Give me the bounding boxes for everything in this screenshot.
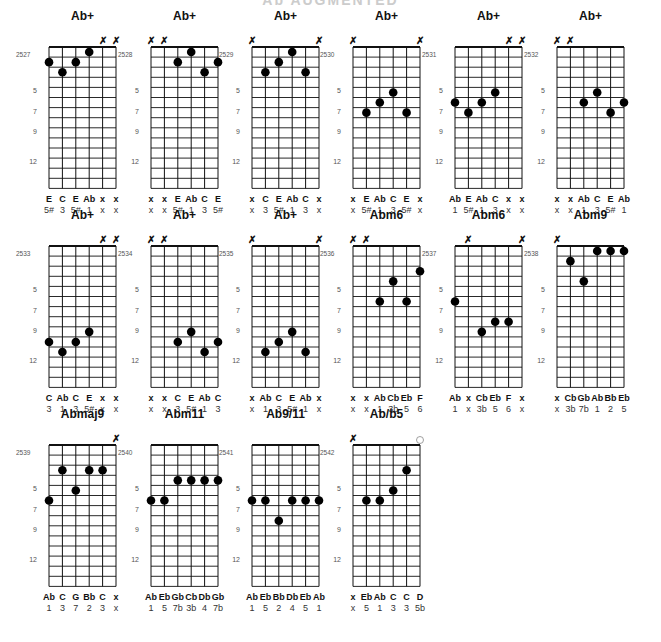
chord-name: Ab+ <box>232 208 339 222</box>
finger-dot-icon <box>72 338 81 347</box>
note-name: x <box>109 194 123 204</box>
finger-dot-icon <box>301 496 310 505</box>
muted-string-icon: ✗ <box>160 35 168 46</box>
fret-number-label: 5 <box>226 87 240 94</box>
finger-dot-icon <box>72 58 81 67</box>
note-name: Eb <box>617 393 631 403</box>
muted-string-icon: ✗ <box>416 35 424 46</box>
page-header: Ab AUGMENTED <box>0 0 661 8</box>
note-name: x <box>157 194 171 204</box>
finger-dot-icon <box>58 348 67 357</box>
note-name: Cb <box>475 393 489 403</box>
finger-dot-icon <box>45 496 54 505</box>
interval-label: 5 <box>258 603 272 613</box>
chord-name: Ab+ <box>29 9 136 23</box>
note-name: Ab <box>198 393 212 403</box>
note-name: x <box>461 393 475 403</box>
note-name: C <box>211 393 225 403</box>
fret-number-label: 12 <box>125 357 139 364</box>
fret-number-label: 5 <box>531 286 545 293</box>
note-name: D <box>413 592 427 602</box>
note-name: Eb <box>299 592 313 602</box>
fretboard-grid: ✗ <box>547 236 634 397</box>
muted-string-icon: ✗ <box>112 35 120 46</box>
interval-label: 3 <box>386 603 400 613</box>
finger-dot-icon <box>58 68 67 77</box>
note-name: x <box>563 194 577 204</box>
chord-number: 2536 <box>320 250 334 257</box>
finger-dot-icon <box>606 247 615 256</box>
interval-label: 7b <box>171 603 185 613</box>
fret-number-label: 12 <box>226 357 240 364</box>
finger-dot-icon <box>402 466 411 475</box>
note-name: Ab <box>55 393 69 403</box>
finger-dot-icon <box>504 317 513 326</box>
interval-label: 2 <box>272 603 286 613</box>
note-name: Ab <box>577 194 591 204</box>
fret-number-label: 12 <box>125 158 139 165</box>
finger-dot-icon <box>275 338 284 347</box>
finger-dot-icon <box>606 108 615 117</box>
chord-number: 2529 <box>219 51 233 58</box>
note-name: x <box>515 194 529 204</box>
fret-number-label: 12 <box>23 357 37 364</box>
fret-number-label: 7 <box>327 108 341 115</box>
finger-dot-icon <box>45 58 54 67</box>
finger-dot-icon <box>288 48 297 57</box>
finger-dot-icon <box>451 98 460 107</box>
note-name: E <box>184 393 198 403</box>
note-name: C <box>386 194 400 204</box>
finger-dot-icon <box>288 328 297 337</box>
muted-string-icon: ✗ <box>147 35 155 46</box>
fret-number-label: 9 <box>327 526 341 533</box>
fret-number-label: 12 <box>429 357 443 364</box>
note-name: C <box>55 592 69 602</box>
note-name: C <box>590 194 604 204</box>
finger-dot-icon <box>593 247 602 256</box>
fret-number-label: 9 <box>23 128 37 135</box>
chord-name: Ab+ <box>537 9 644 23</box>
fret-number-label: 12 <box>226 556 240 563</box>
note-name: Ab <box>475 194 489 204</box>
note-name: Gb <box>577 393 591 403</box>
note-name: x <box>144 393 158 403</box>
finger-dot-icon <box>58 466 67 475</box>
muted-string-icon: ✗ <box>99 35 107 46</box>
muted-string-icon: ✗ <box>315 35 323 46</box>
fret-number-label: 5 <box>226 286 240 293</box>
chord-number: 2535 <box>219 250 233 257</box>
interval-label: 1 <box>42 603 56 613</box>
note-name: Ab <box>448 194 462 204</box>
fret-number-label: 7 <box>531 307 545 314</box>
note-name: x <box>550 393 564 403</box>
note-name: C <box>488 194 502 204</box>
note-name: Ab <box>448 393 462 403</box>
finger-dot-icon <box>620 98 629 107</box>
fret-number-label: 5 <box>226 485 240 492</box>
note-name: x <box>502 194 516 204</box>
finger-dot-icon <box>214 338 223 347</box>
note-name: E <box>171 194 185 204</box>
fret-number-label: 5 <box>429 286 443 293</box>
interval-label: x <box>515 404 529 414</box>
muted-string-icon: ✗ <box>99 234 107 245</box>
interval-label: 1 <box>448 404 462 414</box>
fret-number-label: 9 <box>327 327 341 334</box>
fretboard-grid: ✗✗ <box>141 37 228 198</box>
note-name: C <box>386 592 400 602</box>
note-name: C <box>299 194 313 204</box>
chord-number: 2540 <box>118 449 132 456</box>
interval-label: 3 <box>96 603 110 613</box>
note-name: E <box>82 393 96 403</box>
interval-label: 5 <box>617 404 631 414</box>
chord-number: 2527 <box>16 51 30 58</box>
chord-name: Ab+ <box>131 208 238 222</box>
note-name: x <box>96 393 110 403</box>
chord-number: 2528 <box>118 51 132 58</box>
chord-number: 2537 <box>422 250 436 257</box>
fret-number-label: 7 <box>226 307 240 314</box>
fretboard-grid: ✗ <box>343 435 430 596</box>
note-name: x <box>359 393 373 403</box>
chord-number: 2531 <box>422 51 436 58</box>
fretboard-grid: ✗ <box>39 435 126 596</box>
